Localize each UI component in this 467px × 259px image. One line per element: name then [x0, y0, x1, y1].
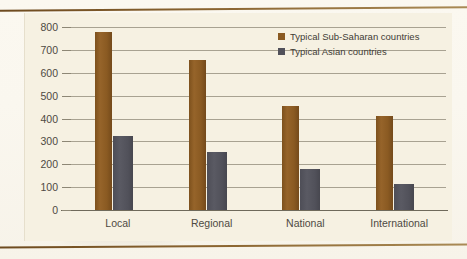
- y-axis-tick: [62, 96, 71, 97]
- legend-item: Typical Sub-Saharan countries: [278, 30, 419, 43]
- bar: [113, 136, 133, 210]
- bar-group: [189, 27, 227, 210]
- y-axis-tick: [62, 27, 71, 28]
- bar: [207, 152, 227, 210]
- legend-swatch-sub-saharan-icon: [278, 33, 285, 40]
- y-axis-label: 800: [40, 21, 58, 33]
- y-axis-label: 200: [40, 158, 58, 170]
- legend-item: Typical Asian countries: [278, 45, 419, 58]
- y-axis-label: 400: [40, 113, 58, 125]
- bar: [300, 169, 320, 210]
- y-axis-tick: [62, 187, 71, 188]
- bar-group: [95, 27, 133, 210]
- bar: [376, 116, 393, 210]
- panel-left-edge: [24, 13, 25, 241]
- y-axis-tick: [62, 141, 71, 142]
- chart-page: 0100200300400500600700800LocalRegionalNa…: [0, 0, 467, 259]
- chart-panel: 0100200300400500600700800LocalRegionalNa…: [24, 13, 452, 241]
- x-axis-label: Regional: [191, 217, 232, 229]
- chart-legend: Typical Sub-Saharan countries Typical As…: [278, 30, 419, 60]
- y-axis-tick: [62, 164, 71, 165]
- y-axis-label: 300: [40, 135, 58, 147]
- y-axis-label: 700: [40, 44, 58, 56]
- legend-label-asian: Typical Asian countries: [290, 45, 387, 58]
- bar: [282, 106, 299, 210]
- y-axis-label: 0: [52, 204, 58, 216]
- y-axis-tick: [62, 119, 71, 120]
- y-axis-label: 100: [40, 181, 58, 193]
- y-axis-label: 500: [40, 90, 58, 102]
- y-axis-label: 600: [40, 67, 58, 79]
- bar: [95, 32, 112, 210]
- x-axis-label: National: [286, 217, 325, 229]
- y-axis-tick: [62, 210, 71, 211]
- legend-swatch-asian-icon: [278, 48, 285, 55]
- x-axis-line: [61, 210, 448, 211]
- legend-label-sub-saharan: Typical Sub-Saharan countries: [290, 30, 419, 43]
- bar: [189, 60, 206, 210]
- y-axis-tick: [62, 73, 71, 74]
- x-axis-label: International: [370, 217, 428, 229]
- y-axis-tick: [62, 50, 71, 51]
- x-axis-label: Local: [105, 217, 130, 229]
- bar: [394, 184, 414, 210]
